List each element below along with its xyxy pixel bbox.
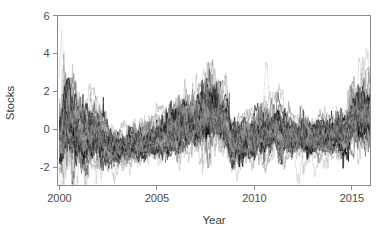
stocks-line-chart: 2000200520102015 -20246 Year Stocks bbox=[0, 0, 391, 230]
y-tick-label: 2 bbox=[43, 85, 49, 97]
x-axis-title: Year bbox=[202, 214, 225, 226]
x-tick-label: 2010 bbox=[242, 192, 266, 204]
y-tick-label: 4 bbox=[43, 47, 49, 59]
y-tick-label: 6 bbox=[43, 10, 49, 22]
chart-figure: 2000200520102015 -20246 Year Stocks bbox=[0, 0, 391, 230]
x-tick-label: 2005 bbox=[145, 192, 169, 204]
y-tick-label: -2 bbox=[40, 161, 50, 173]
y-axis-title: Stocks bbox=[4, 85, 16, 120]
y-tick-label: 0 bbox=[43, 123, 49, 135]
x-tick-label: 2015 bbox=[340, 192, 364, 204]
x-tick-label: 2000 bbox=[47, 192, 71, 204]
